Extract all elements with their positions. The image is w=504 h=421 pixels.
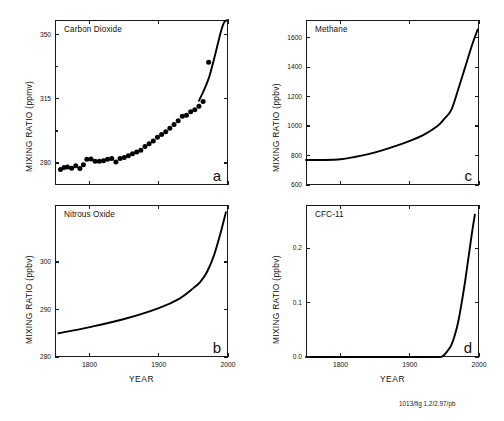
panel-carbon-dioxide: Carbon Dioxide a (55, 20, 228, 185)
y-tick-mark (306, 302, 310, 303)
x-tick-mark-top (227, 20, 228, 24)
y-tick-mark (475, 67, 479, 68)
data-point (138, 148, 143, 153)
x-tick-label: 1800 (74, 361, 106, 368)
y-tick-label: 800 (280, 152, 302, 159)
x-tick-mark-top (409, 20, 410, 24)
x-tick-mark (409, 181, 410, 185)
x-tick-mark (158, 181, 159, 185)
y-tick-mark (475, 96, 479, 97)
y-tick-mark (306, 125, 310, 126)
x-tick-mark-top (340, 20, 341, 24)
data-curve (306, 215, 475, 357)
y-tick-mark (306, 155, 310, 156)
x-tick-mark-top (158, 20, 159, 24)
y-tick-mark (475, 248, 479, 249)
data-curve (58, 212, 225, 333)
data-point (159, 132, 164, 137)
x-tick-mark-top (158, 205, 159, 209)
y-tick-label: 290 (29, 306, 51, 313)
panel-nitrous-oxide: Nitrous Oxide b (55, 205, 228, 357)
data-point (184, 113, 189, 118)
y-tick-mark (55, 162, 59, 163)
y-tick-label: 300 (29, 258, 51, 265)
y-tick-minor (55, 66, 58, 67)
panel-b-plot (55, 205, 228, 357)
x-tick-mark (89, 353, 90, 357)
panel-methane: Methane c (306, 20, 479, 185)
panel-a-plot (55, 20, 228, 185)
x-tick-mark-top (89, 205, 90, 209)
data-point (73, 163, 78, 168)
y-tick-mark (475, 37, 479, 38)
y-tick-mark (224, 162, 228, 163)
data-point (167, 126, 172, 131)
x-tick-mark-top (340, 205, 341, 209)
data-point (77, 166, 82, 171)
data-curve (306, 30, 478, 160)
y-tick-label: 1600 (280, 34, 302, 41)
y-tick-label: 315 (29, 95, 51, 102)
x-tick-mark-top (478, 20, 479, 24)
data-point (155, 135, 160, 140)
y-tick-mark (55, 356, 59, 357)
y-tick-mark (55, 261, 59, 262)
y-tick-mark (306, 248, 310, 249)
data-point (151, 139, 156, 144)
y-tick-mark (475, 302, 479, 303)
y-tick-label: 0.2 (280, 244, 302, 251)
y-tick-label: 1400 (280, 63, 302, 70)
x-tick-label: 2000 (212, 361, 244, 368)
y-tick-mark (55, 309, 59, 310)
x-tick-label: 1800 (325, 361, 357, 368)
figure-credit: 1013/fig 1.2/2.97/pb (399, 400, 456, 407)
data-curve (199, 20, 228, 101)
data-point (180, 114, 185, 119)
y-tick-mark (224, 309, 228, 310)
y-tick-label: 0.1 (280, 299, 302, 306)
y-tick-mark (306, 37, 310, 38)
y-tick-mark (224, 34, 228, 35)
panel-c-plot (306, 20, 479, 185)
data-point (176, 118, 181, 123)
panel-d-xlabel: YEAR (306, 374, 479, 384)
y-tick-label: 600 (280, 181, 302, 188)
y-tick-mark (306, 96, 310, 97)
x-tick-mark-top (227, 205, 228, 209)
y-tick-mark (306, 356, 310, 357)
y-tick-mark (475, 155, 479, 156)
data-point (163, 129, 168, 134)
y-tick-mark (224, 261, 228, 262)
data-point (118, 156, 123, 161)
panel-b-xlabel: YEAR (55, 374, 228, 384)
x-tick-mark (340, 353, 341, 357)
greenhouse-gas-figure: Carbon Dioxide a MIXING RATIO (ppmv) 280… (0, 0, 504, 421)
x-tick-mark (89, 181, 90, 185)
y-tick-mark (475, 125, 479, 126)
x-tick-label: 1900 (143, 361, 175, 368)
data-point (142, 144, 147, 149)
panel-d-plot (306, 205, 479, 357)
x-tick-mark (227, 353, 228, 357)
panel-cfc-11: CFC-11 d (306, 205, 479, 357)
data-point (147, 141, 152, 146)
x-tick-mark-top (89, 20, 90, 24)
y-tick-mark (55, 34, 59, 35)
y-tick-mark (306, 67, 310, 68)
y-tick-mark (306, 184, 310, 185)
y-tick-mark (224, 98, 228, 99)
x-tick-mark-top (409, 205, 410, 209)
data-point (105, 157, 110, 162)
x-tick-mark (158, 353, 159, 357)
x-tick-label: 1900 (394, 361, 426, 368)
data-point (201, 99, 206, 104)
data-point (192, 107, 197, 112)
y-tick-label: 0.0 (280, 353, 302, 360)
data-point (196, 104, 201, 109)
x-tick-mark (478, 353, 479, 357)
data-point (109, 156, 114, 161)
y-tick-mark (55, 98, 59, 99)
data-point (81, 162, 86, 167)
y-tick-label: 280 (29, 353, 51, 360)
panel-b-ylabel: MIXING RATIO (ppbv) (24, 255, 34, 344)
